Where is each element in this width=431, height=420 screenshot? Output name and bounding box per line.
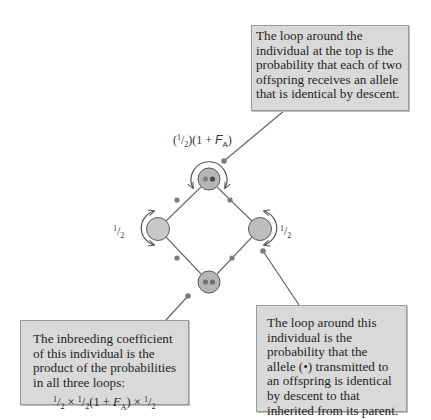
right-loop-label: 1/2 <box>280 224 291 240</box>
allele-dot <box>203 176 208 181</box>
pointer-left-note-unused <box>63 292 88 320</box>
pointer-right-note <box>263 251 299 305</box>
pedigree-nodes <box>147 168 272 293</box>
pointer-dot-right <box>260 248 266 254</box>
pointer-top-note <box>224 110 285 161</box>
edge-right-bottom <box>217 237 252 274</box>
note-line: product of the probabilities <box>33 361 184 376</box>
edge-top-left <box>166 187 201 221</box>
left-loop-label: 1/2 <box>113 224 124 240</box>
pointer-dot-left <box>185 293 191 299</box>
pointer-left-note <box>166 296 188 320</box>
edge-dots <box>174 197 234 260</box>
allele-dots <box>203 176 215 284</box>
allele-dot <box>203 279 208 284</box>
note-inbreeding-coefficient: The inbreeding coefficient of this indiv… <box>20 320 189 405</box>
allele-dot-identical <box>210 176 215 181</box>
note-parent-loop: The loop around this individual is the p… <box>256 305 407 412</box>
node-inbred-individual <box>198 271 220 293</box>
inbreeding-formula: 1/2 × 1/2(1 + FA) × 1/2 <box>33 393 184 415</box>
note-line: probability that the <box>267 345 402 360</box>
note-line: individual at the top is the <box>256 44 405 59</box>
node-right-parent <box>249 218 272 241</box>
note-line: that is identical by descent. <box>256 87 405 102</box>
edge-dot <box>174 255 179 260</box>
note-line: inherited from its parent. <box>267 404 402 419</box>
edge-dot <box>174 197 179 202</box>
edge-top-right <box>217 187 252 221</box>
node-common-ancestor <box>198 168 220 190</box>
note-line: individual is the <box>267 331 402 346</box>
note-line: of this individual is the <box>33 347 184 362</box>
edge-left-bottom <box>166 237 201 274</box>
allele-dot <box>210 279 215 284</box>
note-line: The loop around this <box>267 316 402 331</box>
note-line: offspring receives an allele <box>256 73 405 88</box>
node-left-parent <box>147 218 170 241</box>
pointer-dot-top <box>221 158 227 164</box>
edge-dot <box>227 197 232 202</box>
note-line: an offspring is identical <box>267 374 402 389</box>
note-line: The inbreeding coefficient <box>33 332 184 347</box>
note-top-loop: The loop around the individual at the to… <box>251 25 409 111</box>
note-line: probability that each of two <box>256 58 405 73</box>
edge-dot <box>229 255 234 260</box>
top-loop-label: (1/2)(1 + FA) <box>173 133 232 149</box>
note-line: The loop around the <box>256 29 405 44</box>
note-line: allele (•) transmitted to <box>267 360 402 375</box>
note-line: in all three loops: <box>33 376 184 391</box>
note-line: by descent to that <box>267 389 402 404</box>
